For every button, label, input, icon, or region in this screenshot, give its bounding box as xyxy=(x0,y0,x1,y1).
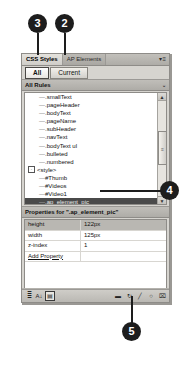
all-rules-section-header: All Rules ⌄ xyxy=(22,79,169,91)
panel-tab-bar: CSS Styles AP Elements ▾≡ xyxy=(22,54,169,66)
section-collapse-icon[interactable]: ⌄ xyxy=(162,80,169,90)
properties-table[interactable]: height122pxwidth125pxz-index1Add Propert… xyxy=(24,219,167,295)
rule-label: .ap_element_pic xyxy=(45,199,89,204)
show-category-view-icon[interactable]: ≣ xyxy=(25,292,33,300)
tree-branch-line-icon: — xyxy=(39,133,44,141)
rules-filter-toggle-row: All Current xyxy=(22,66,169,79)
callout-4: 4 xyxy=(160,181,179,200)
tab-css-styles[interactable]: CSS Styles xyxy=(22,54,63,65)
tree-branch-line-icon: — xyxy=(39,198,44,204)
tree-branch-line-icon: — xyxy=(39,142,44,150)
tree-branch-line-icon: — xyxy=(39,109,44,117)
view-mode-button-group: ≣A↓▤ xyxy=(25,291,55,301)
tree-branch-line-icon: — xyxy=(39,150,44,158)
rule-list-item[interactable]: —.smallText xyxy=(25,93,157,101)
rule-label: .bodyText ul xyxy=(45,143,77,149)
all-rules-list[interactable]: —.smallText—.pageHeader—.bodyText—.pageN… xyxy=(24,92,167,205)
rule-list-item[interactable]: —.bulleted xyxy=(25,150,157,158)
property-value[interactable]: 125px xyxy=(81,231,166,241)
rule-label: .subHeader xyxy=(45,126,76,132)
property-name[interactable]: height xyxy=(25,220,81,230)
screenshot-stage: 3 2 4 5 CSS Styles AP Elements ▾≡ All Cu… xyxy=(0,0,194,369)
rule-list-item[interactable]: —#Videos xyxy=(25,182,157,190)
scroll-up-button[interactable]: ▲ xyxy=(158,93,166,101)
rule-label: <style> xyxy=(37,167,56,173)
callout-5: 5 xyxy=(122,322,141,341)
rule-label: .numbered xyxy=(45,159,74,165)
property-name[interactable]: width xyxy=(25,231,81,241)
rule-label: .pageHeader xyxy=(45,102,80,108)
rule-list-item[interactable]: —.bodyText xyxy=(25,109,157,117)
tree-branch-line-icon: — xyxy=(39,125,44,133)
callout-2: 2 xyxy=(55,14,74,33)
tree-branch-line-icon: — xyxy=(39,158,44,166)
rule-list-item[interactable]: —.navText xyxy=(25,133,157,141)
property-row[interactable]: z-index1 xyxy=(25,241,166,252)
panel-options-menu-icon[interactable]: ▾≡ xyxy=(156,54,169,65)
rule-list-item[interactable]: —.bodyText ul xyxy=(25,142,157,150)
property-value[interactable]: 1 xyxy=(81,241,166,251)
property-value[interactable] xyxy=(81,252,166,262)
property-value[interactable]: 122px xyxy=(81,220,166,230)
property-row[interactable]: height122px xyxy=(25,220,166,231)
panel-action-button-group: ▬↻╱○⌧ xyxy=(114,292,166,300)
rule-list-item[interactable]: -<style> xyxy=(25,166,157,174)
rule-label: .smallText xyxy=(45,94,72,100)
callout-2-leader-line xyxy=(64,33,66,55)
rule-label: .navText xyxy=(45,134,67,140)
tab-ap-elements[interactable]: AP Elements xyxy=(63,54,107,65)
rule-list-item[interactable]: —.pageName xyxy=(25,117,157,125)
show-list-view-icon[interactable]: A↓ xyxy=(35,292,43,300)
tree-branch-line-icon: — xyxy=(39,190,44,198)
css-styles-panel: CSS Styles AP Elements ▾≡ All Current Al… xyxy=(21,53,170,303)
all-rules-list-items: —.smallText—.pageHeader—.bodyText—.pageN… xyxy=(25,93,157,204)
tree-branch-line-icon: — xyxy=(39,182,44,190)
tree-branch-line-icon: — xyxy=(39,93,44,101)
add-property-link[interactable]: Add Property xyxy=(25,252,81,262)
tree-branch-line-icon: — xyxy=(39,117,44,125)
rule-label: .pageName xyxy=(45,118,76,124)
rule-list-item[interactable]: —.subHeader xyxy=(25,125,157,133)
rule-label: .bodyText xyxy=(45,110,71,116)
callout-3: 3 xyxy=(28,14,47,33)
all-rules-title: All Rules xyxy=(25,80,51,90)
rule-label: .bulleted xyxy=(45,151,68,157)
filter-current-button[interactable]: Current xyxy=(50,67,88,79)
scrollbar-thumb-grip-icon: ≡ xyxy=(161,147,165,151)
add-property-row[interactable]: Add Property xyxy=(25,252,166,263)
callout-4-leader-line xyxy=(100,190,163,192)
attach-style-sheet-icon[interactable]: ▬ xyxy=(114,292,122,300)
property-row[interactable]: width125px xyxy=(25,231,166,242)
edit-rule-icon[interactable]: ╱ xyxy=(136,292,144,300)
rule-label: #Video1 xyxy=(45,191,67,197)
delete-css-rule-icon[interactable]: ⌧ xyxy=(158,292,166,300)
scrollbar-thumb[interactable]: ≡ xyxy=(158,131,167,165)
rule-label: #Thumb xyxy=(45,175,67,181)
rule-list-item[interactable]: —.numbered xyxy=(25,158,157,166)
rule-list-item[interactable]: —.pageHeader xyxy=(25,101,157,109)
callout-5-leader-line xyxy=(131,296,133,324)
tab-bar-filler xyxy=(106,54,156,65)
tree-branch-line-icon: — xyxy=(39,101,44,109)
rule-list-item[interactable]: —#Thumb xyxy=(25,174,157,182)
callout-3-leader-line xyxy=(37,33,39,55)
panel-bottom-toolbar: ≣A↓▤ ▬↻╱○⌧ xyxy=(22,289,169,302)
rule-list-item-selected[interactable]: —.ap_element_pic xyxy=(25,198,157,204)
rule-label: #Videos xyxy=(45,183,67,189)
disable-css-property-icon[interactable]: ○ xyxy=(147,292,155,300)
properties-header: Properties for ".ap_element_pic" xyxy=(22,206,169,218)
tree-branch-line-icon: — xyxy=(39,174,44,182)
property-name[interactable]: z-index xyxy=(25,241,81,251)
filter-all-button[interactable]: All xyxy=(25,67,49,79)
show-only-set-properties-icon[interactable]: ▤ xyxy=(45,291,55,301)
properties-rows: height122pxwidth125pxz-index1Add Propert… xyxy=(25,220,166,262)
tree-expander-icon[interactable]: - xyxy=(28,166,35,173)
